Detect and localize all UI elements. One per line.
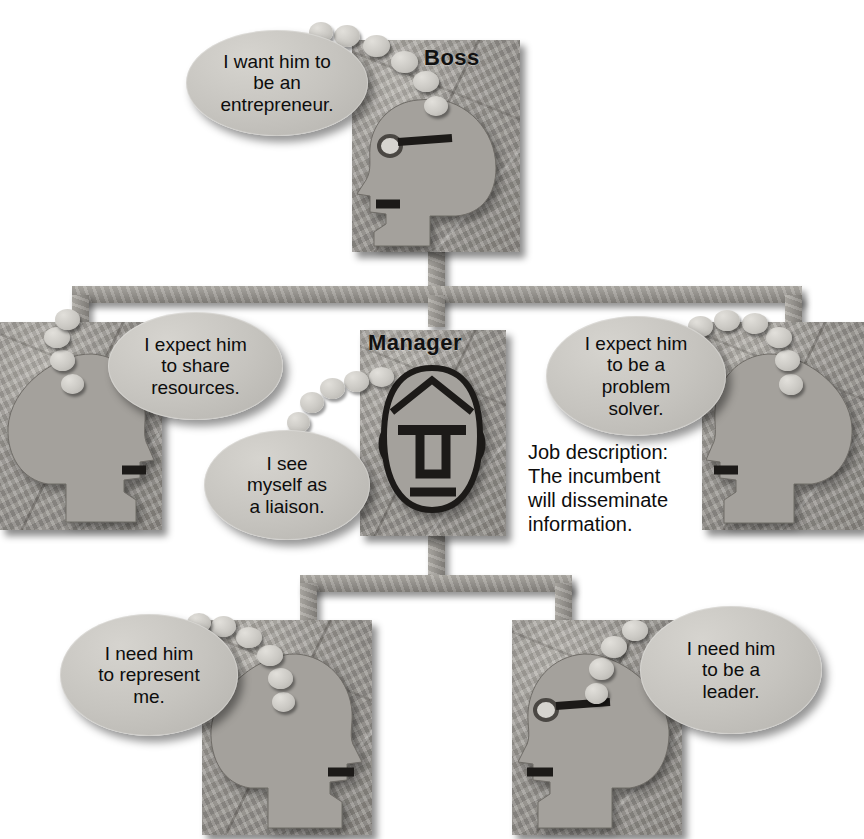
thought-bubble-peer-left: I expect him to share resources. bbox=[108, 312, 283, 420]
bubble-line: to be a bbox=[585, 354, 687, 376]
head-boss bbox=[356, 96, 506, 248]
thought-dot bbox=[766, 327, 792, 348]
bubble-line: to represent bbox=[98, 664, 199, 686]
plaque-label-boss: Boss bbox=[424, 45, 480, 71]
bubble-line: resources. bbox=[144, 377, 246, 399]
thought-dot bbox=[779, 374, 803, 395]
bubble-line: I expect him bbox=[585, 333, 687, 355]
thought-dot bbox=[391, 51, 418, 73]
thought-dot bbox=[236, 627, 262, 648]
thought-bubble-report-left: I need him to represent me. bbox=[60, 614, 238, 736]
bubble-line: problem bbox=[585, 376, 687, 398]
diagram-canvas: Boss I want him to be an entrepreneur. I… bbox=[0, 0, 864, 839]
thought-dot bbox=[300, 392, 324, 413]
bubble-line: I expect him bbox=[144, 334, 246, 356]
bubble-line: be an bbox=[220, 72, 333, 94]
thought-dot bbox=[344, 371, 369, 392]
thought-bubble-manager: I see myself as a liaison. bbox=[204, 430, 370, 540]
connector-to-report-left bbox=[300, 583, 317, 623]
bubble-line: to share bbox=[144, 355, 246, 377]
thought-dot bbox=[742, 313, 768, 334]
thought-dot bbox=[714, 310, 740, 331]
thought-dot bbox=[44, 327, 70, 348]
job-description-caption: Job description: The incumbent will diss… bbox=[528, 440, 668, 536]
thought-dot bbox=[413, 71, 439, 92]
thought-dot bbox=[320, 378, 345, 399]
thought-dot bbox=[622, 620, 648, 641]
thought-bubble-report-right: I need him to be a leader. bbox=[640, 606, 822, 734]
bubble-line: leader. bbox=[687, 681, 776, 703]
thought-bubble-peer-right: I expect him to be a problem solver. bbox=[546, 316, 726, 436]
thought-dot bbox=[589, 658, 614, 680]
thought-dot bbox=[369, 367, 394, 387]
thought-dot bbox=[272, 692, 295, 712]
thought-dot bbox=[257, 645, 283, 666]
thought-dot bbox=[268, 668, 293, 689]
bubble-line: me. bbox=[98, 686, 199, 708]
thought-dot bbox=[424, 96, 448, 116]
bubble-line: solver. bbox=[585, 398, 687, 420]
bubble-line: I see bbox=[247, 453, 327, 475]
thought-bubble-boss: I want him to be an entrepreneur. bbox=[186, 30, 368, 136]
bubble-line: a liaison. bbox=[247, 496, 327, 518]
thought-dot bbox=[775, 350, 800, 371]
head-peer-right bbox=[706, 348, 856, 526]
plaque-label-manager: Manager bbox=[368, 330, 462, 356]
bubble-line: to be a bbox=[687, 659, 776, 681]
connector-to-manager bbox=[428, 295, 445, 327]
thought-dot bbox=[61, 374, 84, 394]
bubble-line: I need him bbox=[98, 643, 199, 665]
bubble-line: entrepreneur. bbox=[220, 94, 333, 116]
bubble-line: myself as bbox=[247, 474, 327, 496]
thought-dot bbox=[601, 636, 627, 658]
thought-dot bbox=[50, 350, 75, 371]
bubble-line: I need him bbox=[687, 638, 776, 660]
bubble-line: I want him to bbox=[220, 51, 333, 73]
thought-dot bbox=[363, 35, 390, 57]
thought-dot bbox=[55, 309, 80, 330]
connector-lower-horizontal bbox=[300, 575, 572, 592]
thought-dot bbox=[585, 683, 608, 704]
connector-to-report-right bbox=[555, 583, 572, 623]
